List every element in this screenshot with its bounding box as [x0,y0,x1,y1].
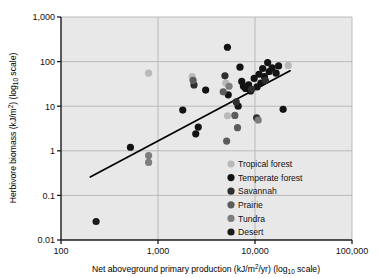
legend-marker[interactable] [227,188,234,195]
y-axis-title: Herbivore biomass (kJ/m2) (log10 scale) [7,53,19,204]
legend-label[interactable]: Tundra [238,214,265,224]
x-tick-label: 100 [53,246,68,256]
x-tick-label: 1,000 [147,246,170,256]
data-point[interactable] [231,112,238,119]
y-tick-label: 1 [50,146,55,156]
data-point[interactable] [234,124,241,131]
figure-container: 1001,00010,000100,0000.010.11101001,000H… [0,0,381,278]
legend-marker[interactable] [227,160,234,167]
y-tick-label: 10 [45,102,55,112]
plot-area-background [61,17,352,240]
series-desert [92,218,99,225]
data-point[interactable] [285,62,292,69]
data-point[interactable] [236,64,243,71]
legend-label[interactable]: Temperate forest [238,173,303,183]
x-tick-label: 10,000 [241,246,269,256]
y-axis-ticks: 0.010.11101001,000 [32,12,61,245]
data-point[interactable] [224,44,231,51]
y-tick-label: 1,000 [32,12,55,22]
data-point[interactable] [259,65,266,72]
data-point[interactable] [145,70,152,77]
x-axis-title: Net aboveground primary production (kJ/m… [92,263,320,275]
y-tick-label: 0.01 [37,235,55,245]
data-point[interactable] [224,112,231,119]
x-tick-label: 100,000 [336,246,369,256]
legend-label[interactable]: Savannah [238,186,277,196]
data-point[interactable] [145,159,152,166]
data-point[interactable] [255,116,262,123]
data-point[interactable] [225,83,232,90]
data-point[interactable] [272,70,279,77]
data-point[interactable] [233,98,240,105]
data-point[interactable] [145,152,152,159]
data-point[interactable] [248,86,255,93]
scatter-plot: 1001,00010,000100,0000.010.11101001,000H… [0,0,381,278]
data-point[interactable] [220,88,227,95]
legend-label[interactable]: Tropical forest [238,159,293,169]
y-tick-label: 100 [40,57,55,67]
legend-marker[interactable] [227,215,234,222]
data-point[interactable] [195,123,202,130]
legend-marker[interactable] [227,228,234,235]
x-axis-ticks: 1001,00010,000100,000 [53,240,368,256]
legend-label[interactable]: Prairie [238,200,263,210]
data-point[interactable] [192,130,199,137]
data-point[interactable] [202,86,209,93]
data-point[interactable] [189,77,196,84]
data-point[interactable] [179,106,186,113]
data-point[interactable] [127,144,134,151]
legend-label[interactable]: Desert [238,227,264,237]
data-point[interactable] [92,218,99,225]
data-point[interactable] [275,62,282,69]
y-tick-label: 0.1 [42,191,55,201]
data-point[interactable] [280,106,287,113]
data-point[interactable] [262,77,269,84]
data-point[interactable] [223,138,230,145]
data-point[interactable] [221,72,228,79]
legend-marker[interactable] [227,201,234,208]
legend-marker[interactable] [227,174,234,181]
